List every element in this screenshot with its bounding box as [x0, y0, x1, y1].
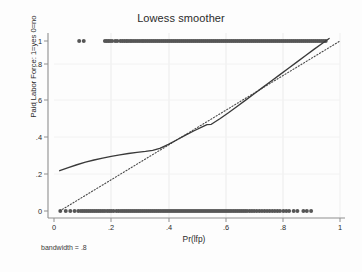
x-axis-label: Pr(lfp) [44, 234, 344, 244]
data-point [301, 209, 305, 213]
y-tick-label-0: 0 [30, 207, 42, 216]
x-tick-label-5: 1 [338, 223, 342, 232]
x-tick-label-0: 0 [52, 223, 56, 232]
scatter-points-y0 [58, 209, 313, 213]
x-tick-label-4: .8 [280, 223, 286, 232]
y-tick-label-2: .4 [30, 133, 42, 142]
scatter-points-y1 [77, 39, 328, 43]
y-tick-label-1: .2 [30, 170, 42, 179]
data-point [292, 209, 296, 213]
chart-title: Lowess smoother [0, 12, 362, 24]
data-point [295, 209, 299, 213]
lowess-curve [60, 38, 329, 170]
data-point [68, 209, 72, 213]
x-tick-label-2: .4 [166, 223, 172, 232]
reference-line-45deg [60, 41, 340, 211]
y-tick-label-5: 1 [30, 37, 42, 46]
data-point [77, 39, 81, 43]
data-point [64, 209, 68, 213]
data-point [73, 209, 77, 213]
x-tick-label-1: .2 [108, 223, 114, 232]
y-tick-label-4: .8 [30, 60, 42, 69]
bandwidth-note: bandwidth = .8 [41, 244, 87, 251]
data-point [309, 209, 313, 213]
data-point [278, 209, 282, 213]
data-point [305, 209, 309, 213]
data-point [82, 39, 86, 43]
chart-figure: Lowess smoother Paid Labor Force: 1=yes … [0, 0, 362, 272]
gridlines [54, 33, 340, 218]
y-tick-label-3: .6 [30, 96, 42, 105]
data-point [287, 209, 291, 213]
x-tick-label-3: .6 [223, 223, 229, 232]
